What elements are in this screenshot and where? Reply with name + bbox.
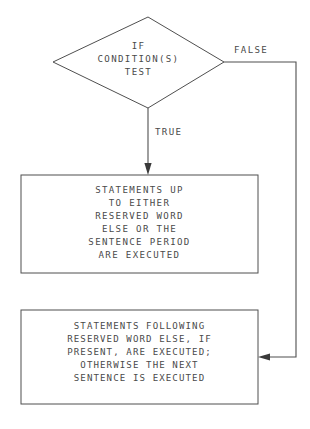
decision-diamond-shape bbox=[53, 17, 224, 108]
true-branch-arrowhead bbox=[144, 163, 151, 175]
process-bottom-box-shape bbox=[21, 310, 258, 404]
process-top-box-shape bbox=[21, 175, 258, 273]
flowchart-diagram: IF CONDITION(S) TEST STATEMENTS UP TO EI… bbox=[0, 0, 310, 429]
false-branch-arrowhead bbox=[258, 353, 270, 360]
false-branch-connector bbox=[224, 62, 296, 357]
flowchart-canvas bbox=[0, 0, 310, 429]
